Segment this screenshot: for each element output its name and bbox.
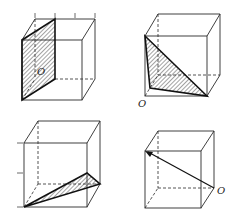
shaded-triangle — [24, 173, 100, 207]
figure-top-right: O — [138, 14, 220, 109]
cube-diagrams: O O — [0, 0, 237, 221]
figure-bottom-left — [17, 121, 100, 207]
figure-bottom-right: O — [145, 131, 225, 208]
figure-top-left: O — [22, 13, 95, 100]
origin-label: O — [138, 98, 146, 109]
origin-label: O — [37, 66, 45, 77]
origin-label: O — [217, 185, 225, 196]
